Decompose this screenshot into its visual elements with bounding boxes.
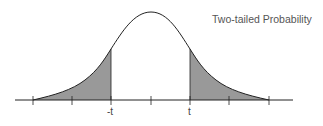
pos-t-label: t bbox=[188, 106, 191, 117]
right-tail-shade bbox=[190, 49, 269, 100]
neg-t-label: -t bbox=[107, 106, 113, 117]
diagram-title: Two-tailed Probability bbox=[212, 13, 312, 25]
left-tail-shade bbox=[33, 49, 111, 100]
density-curve bbox=[33, 12, 269, 100]
